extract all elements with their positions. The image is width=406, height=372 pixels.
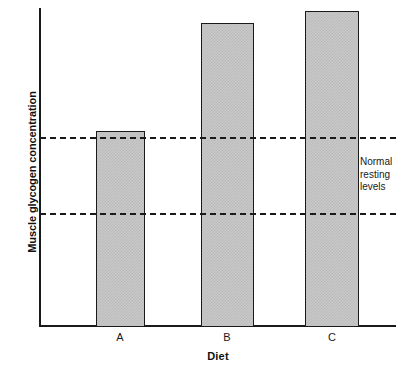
x-tick-label-b: B	[197, 331, 257, 343]
bar-diet-c	[305, 11, 359, 327]
annotation-line-2: resting	[360, 169, 406, 182]
bar-diet-a	[96, 131, 145, 327]
x-tick-label-c: C	[302, 331, 362, 343]
annotation-line-1: Normal	[360, 156, 406, 169]
x-axis-title: Diet	[40, 350, 396, 362]
plot-area	[0, 0, 406, 327]
bar-chart: Muscle glycogen concentration Normal res…	[0, 0, 406, 372]
reference-line-lower	[40, 213, 396, 215]
reference-line-upper	[40, 137, 396, 139]
bar-diet-b	[201, 23, 254, 327]
x-tick-label-a: A	[90, 331, 150, 343]
normal-resting-levels-annotation: Normal resting levels	[360, 156, 406, 194]
annotation-line-3: levels	[360, 181, 406, 194]
